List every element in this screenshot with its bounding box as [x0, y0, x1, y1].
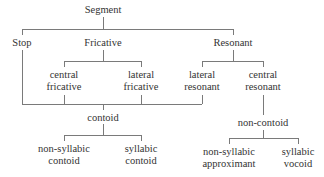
- node-non-syllabic-contoid: non-syllabic contoid: [38, 143, 90, 167]
- node-non-contoid: non-contoid: [238, 117, 289, 129]
- node-label-line: lateral: [184, 69, 220, 81]
- node-label-line: non-syllabic: [38, 143, 90, 155]
- node-label-line: lateral: [124, 69, 159, 81]
- node-label-line: syllabic: [125, 143, 158, 155]
- node-label-line: contoid: [38, 155, 90, 167]
- node-label-line: fricative: [124, 81, 159, 93]
- node-label-line: non-syllabic: [202, 146, 255, 158]
- node-label-line: approximant: [202, 158, 255, 170]
- node-resonant: Resonant: [213, 37, 252, 49]
- node-label-line: fricative: [47, 81, 82, 93]
- node-label-line: resonant: [245, 81, 281, 93]
- node-label-line: resonant: [184, 81, 220, 93]
- node-segment: Segment: [85, 4, 122, 16]
- node-contoid: contoid: [87, 112, 119, 124]
- node-lateral-resonant: lateral resonant: [184, 69, 220, 93]
- node-label-line: syllabic: [282, 146, 315, 158]
- node-lateral-fricative: lateral fricative: [124, 69, 159, 93]
- node-label-line: central: [47, 69, 82, 81]
- node-label-line: contoid: [125, 155, 158, 167]
- node-stop: Stop: [12, 37, 31, 49]
- node-central-fricative: central fricative: [47, 69, 82, 93]
- node-fricative: Fricative: [84, 37, 121, 49]
- node-label-line: central: [245, 69, 281, 81]
- node-label-line: vocoid: [282, 158, 315, 170]
- node-non-syllabic-approximant: non-syllabic approximant: [202, 146, 255, 170]
- node-syllabic-vocoid: syllabic vocoid: [282, 146, 315, 170]
- node-central-resonant: central resonant: [245, 69, 281, 93]
- node-syllabic-contoid: syllabic contoid: [125, 143, 158, 167]
